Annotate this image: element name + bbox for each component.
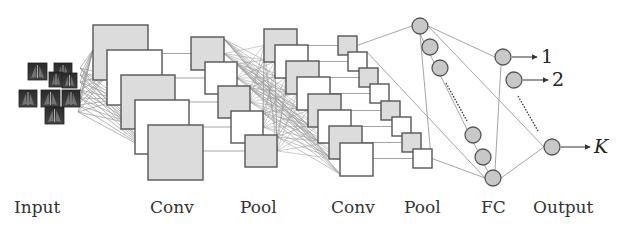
label-pool2: Pool [404, 197, 441, 217]
label-conv1: Conv [150, 197, 194, 217]
fc-neuron [465, 127, 481, 143]
xray-thumbnail-icon [62, 90, 80, 107]
connection-line [80, 50, 93, 75]
fc-neuron [422, 39, 438, 55]
connection-line [495, 65, 501, 170]
pool2-feature-map [370, 84, 389, 103]
label-conv2: Conv [331, 197, 375, 217]
xray-thumbnail-icon [49, 72, 63, 87]
connection-line [224, 46, 264, 54]
stage-labels: Input Conv Pool Conv Pool FC Output [14, 197, 594, 217]
cnn-diagram: 12K Input Conv Pool Conv Pool FC Output [0, 0, 625, 228]
xray-thumbnail-icon [41, 90, 60, 107]
output-class-label: 1 [541, 45, 553, 67]
fc-neuron [485, 170, 501, 186]
output-neuron [544, 139, 560, 155]
pool2-feature-map [413, 149, 432, 168]
diagram-canvas: 12K Input Conv Pool Conv Pool FC Output [0, 0, 625, 228]
fc-neuron [412, 18, 428, 34]
connection-line [501, 147, 544, 178]
label-input: Input [14, 197, 60, 217]
xray-thumbnail-icon [28, 63, 47, 80]
xray-thumbnail-icon [62, 73, 77, 88]
ellipsis-dots-icon [518, 96, 538, 131]
output-class-label: K [593, 135, 610, 157]
label-fc: FC [481, 197, 506, 217]
label-output: Output [533, 197, 594, 217]
xray-thumbnail-icon [19, 90, 37, 107]
connection-line [428, 26, 495, 57]
ellipsis-dots-icon [446, 83, 467, 121]
output-neuron [506, 72, 522, 88]
output-neuron [495, 49, 511, 65]
pool1-feature-map [245, 135, 277, 167]
xray-thumbnail-icon [45, 107, 64, 124]
fc-neuron [475, 149, 491, 165]
label-pool1: Pool [240, 197, 277, 217]
conv1-feature-map [148, 125, 203, 180]
connection-line [357, 26, 412, 46]
conv1-feature-maps [93, 25, 203, 180]
fc-neuron [432, 60, 448, 76]
output-class-label: 2 [552, 68, 564, 90]
output-layer-nodes: 12K [495, 45, 610, 157]
input-images [19, 63, 80, 124]
conv2-feature-map [340, 143, 373, 176]
